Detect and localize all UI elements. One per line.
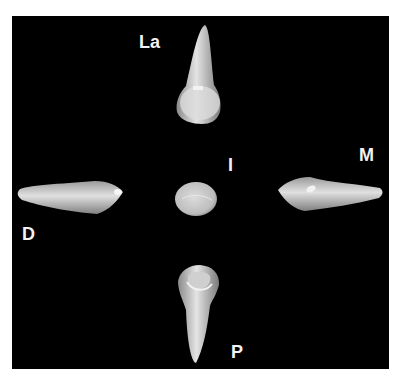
tooth-incisal-view [175,182,217,216]
label-distal: D [22,225,35,243]
tooth-distal-view [18,181,123,214]
label-mesial: M [359,146,374,164]
tooth-palatal-view [178,265,219,363]
tooth-mesial-view [278,177,383,211]
label-palatal: P [231,343,243,361]
label-incisal: I [228,156,233,174]
tooth-labial-view [177,25,221,124]
tooth-views [0,0,399,378]
label-labial: La [139,33,160,51]
